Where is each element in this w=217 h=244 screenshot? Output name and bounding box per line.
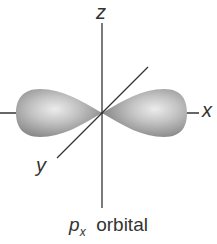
px-orbital-diagram [0, 0, 217, 244]
z-axis-label: z [96, 2, 106, 22]
caption: px orbital [0, 214, 217, 239]
right-lobe [102, 89, 187, 137]
caption-subscript: x [80, 225, 86, 239]
left-lobe [16, 89, 102, 137]
x-axis-label: x [202, 100, 212, 120]
caption-text: orbital [96, 214, 148, 235]
caption-symbol: p [69, 214, 80, 235]
y-axis-label: y [36, 155, 46, 175]
